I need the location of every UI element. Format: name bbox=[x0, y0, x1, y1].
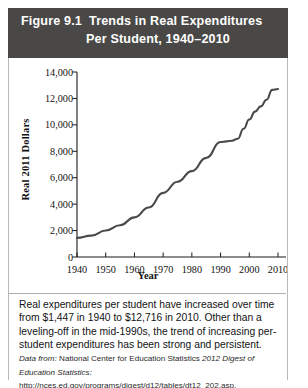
figure-title-line-1: Figure 9.1Trends in Real Expenditures bbox=[21, 14, 262, 28]
y-axis-title: Real 2011 Dollars bbox=[20, 95, 31, 225]
y-tick-label: 8,000 bbox=[50, 146, 73, 157]
figure-body: Real 2011 Dollars Year 02,0004,0006,0008… bbox=[8, 58, 288, 380]
figure-container: Figure 9.1Trends in Real Expenditures Pe… bbox=[0, 0, 308, 388]
chart-plot-area: Real 2011 Dollars Year 02,0004,0006,0008… bbox=[9, 58, 287, 294]
caption-source: Data from: National Center for Education… bbox=[19, 354, 254, 388]
y-tick-label: 0 bbox=[68, 252, 73, 263]
y-tick-label: 14,000 bbox=[45, 67, 73, 78]
figure-title-text-1: Trends in Real Expenditures bbox=[89, 14, 262, 28]
y-tick-label-group: 02,0004,0006,0008,00010,00012,00014,000 bbox=[45, 67, 73, 263]
x-tick-mark-group bbox=[77, 253, 278, 258]
source-org: National Center for Education Statistics bbox=[59, 354, 200, 363]
y-tick-mark-group bbox=[73, 72, 78, 257]
figure-caption: Real expenditures per student have incre… bbox=[9, 298, 286, 388]
y-tick-label: 2,000 bbox=[50, 225, 73, 236]
figure-title-line-2: Per Student, 1940–2010 bbox=[86, 32, 230, 46]
data-series-line bbox=[77, 89, 278, 238]
y-tick-label: 10,000 bbox=[45, 119, 73, 130]
x-axis-title: Year bbox=[9, 270, 287, 281]
y-tick-label: 4,000 bbox=[50, 199, 73, 210]
source-url: http://nces.ed.gov/programs/digest/d12/t… bbox=[19, 381, 236, 388]
source-prefix: Data from: bbox=[19, 354, 57, 363]
line-chart-svg: 02,0004,0006,0008,00010,00012,00014,000 … bbox=[9, 58, 287, 294]
figure-header: Figure 9.1Trends in Real Expenditures Pe… bbox=[8, 8, 288, 58]
y-tick-label: 12,000 bbox=[45, 93, 73, 104]
figure-number: Figure 9.1 bbox=[21, 14, 82, 28]
caption-body: Real expenditures per student have incre… bbox=[19, 299, 276, 350]
caption-divider bbox=[9, 293, 286, 294]
y-tick-label: 6,000 bbox=[50, 172, 73, 183]
